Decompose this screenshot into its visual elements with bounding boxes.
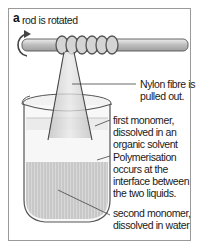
polymerisation-line1: Polymerisation bbox=[113, 151, 176, 164]
polymerisation-line2: occurs at the bbox=[113, 163, 168, 176]
first-monomer-line2: dissolved in an bbox=[113, 126, 176, 139]
fibre-label-line1: Nylon fibre is bbox=[140, 78, 195, 91]
rod-label: rod is rotated bbox=[22, 14, 78, 27]
second-monomer-line2: dissolved in water bbox=[113, 219, 189, 232]
first-monomer-line1: first monomer, bbox=[113, 114, 174, 127]
first-monomer-line3: organic solvent bbox=[113, 138, 178, 151]
fibre-label-line2: pulled out. bbox=[140, 90, 184, 103]
polymerisation-line4: the two liquids. bbox=[113, 187, 176, 200]
polymerisation-line3: interface between bbox=[113, 175, 189, 188]
fibre-coils bbox=[56, 36, 118, 54]
second-monomer-line1: second monomer, bbox=[113, 207, 190, 220]
